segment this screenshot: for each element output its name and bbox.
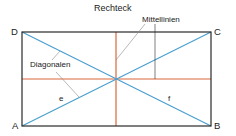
label-middle-lines: Mittellinien [142,16,180,24]
vertex-b: B [214,121,220,131]
label-diagonal-e: e [59,95,63,103]
vertex-c: C [214,27,221,37]
leader-diagonal-f [52,51,60,60]
diagram-title: Rechteck [94,4,132,13]
leader-middle-vertical [116,24,145,60]
vertex-a: A [12,121,18,131]
label-diagonal-f: f [168,95,170,103]
label-diagonals: Diagonalen [30,61,70,69]
vertex-d: D [11,27,18,37]
